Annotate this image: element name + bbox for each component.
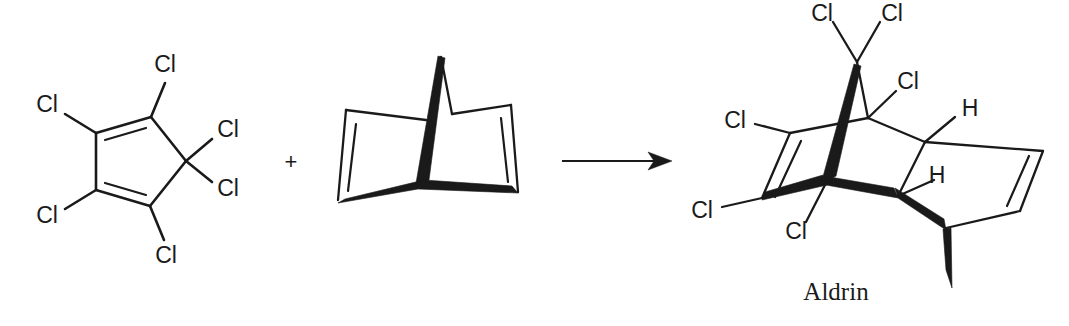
bond-ccl2-cl-left (833, 22, 857, 62)
label-cl-upper-left: Cl (36, 91, 58, 117)
label-cl-bottom: Cl (155, 242, 177, 268)
bond-c4-c5 (150, 161, 186, 206)
label-cl-lower-left: Cl (36, 202, 58, 228)
double-bond-inner-left (348, 124, 356, 191)
bond-c1-c2 (96, 117, 151, 133)
bond-c3-cl-lower-left (65, 190, 96, 209)
product-name-label: Aldrin (803, 278, 869, 305)
label-cl-right-upper: Cl (217, 116, 239, 142)
bond-ccl2-cl-right (857, 22, 880, 62)
reaction-scheme-canvas: Cl Cl Cl Cl Cl Cl + (0, 0, 1069, 326)
plus-sign: + (285, 149, 298, 174)
reaction-scheme: Cl Cl Cl Cl Cl Cl + (0, 0, 1069, 326)
wedge-bridge-apex-to-bridgehead (415, 56, 445, 189)
bond-c3-c4 (96, 190, 150, 206)
wedge-ch2-bridge-tip (943, 228, 952, 288)
reaction-arrow (562, 152, 672, 170)
bond-bridgehead-to-alkene-upper (925, 142, 1043, 151)
bond-alkene-right (1020, 151, 1043, 211)
label-cl-bridge-left: Cl (811, 0, 833, 26)
reactant-hexachlorocyclopentadiene: Cl Cl Cl Cl Cl Cl (36, 51, 239, 268)
bond-right-alkene (511, 105, 518, 192)
label-cl-bridge-right: Cl (881, 0, 903, 26)
bond-apex-right-bridgehead (441, 57, 452, 114)
double-bond-inner-right (501, 118, 508, 182)
bond-right-top-edge (452, 105, 511, 114)
bond-inner-to-vinyl-upper (790, 118, 868, 133)
bond-c2-cl-upper-left (65, 114, 96, 133)
product-aldrin: Cl Cl Cl Cl Cl Cl H H Aldrin (691, 0, 1043, 305)
wedge-bridgehead-right-bottom (418, 180, 518, 193)
bond-ccl2-to-inner (857, 62, 868, 118)
bond-left-top-edge (346, 110, 426, 120)
label-cl-vinyl-upper: Cl (724, 107, 746, 133)
wedge-vinyl-to-quaternary (762, 175, 827, 200)
bond-left-alkene (338, 110, 346, 200)
bond-inner-cl (868, 91, 896, 118)
bond-alkene-to-bridge (946, 211, 1020, 228)
label-cl-right-lower: Cl (217, 175, 239, 201)
label-cl-vinyl-lower: Cl (691, 197, 713, 223)
bond-c1-cl-top (151, 83, 165, 117)
label-h-upper: H (962, 95, 979, 121)
bond-bridgehead-h (925, 117, 955, 142)
bond-c5-c1 (151, 117, 186, 161)
bond-c5-cl-right-upper (186, 139, 212, 161)
reactant-norbornadiene (338, 56, 518, 203)
label-cl-inner: Cl (897, 68, 919, 94)
wedge-bridgehead-left-bottom (338, 180, 424, 203)
bond-inner-to-bridgehead (868, 118, 925, 142)
label-cl-top: Cl (154, 51, 176, 77)
label-cl-quaternary: Cl (785, 218, 807, 244)
label-h-lower: H (929, 162, 946, 188)
bond-vinyl-lower-cl (722, 198, 762, 207)
wedge-quaternary-to-midfront (824, 176, 898, 198)
bond-bridgehead-to-midfront (898, 142, 925, 196)
bond-vinyl-upper-cl (755, 124, 790, 133)
bond-c4-cl-bottom (150, 206, 164, 240)
bond-c5-cl-right-lower (186, 161, 212, 182)
